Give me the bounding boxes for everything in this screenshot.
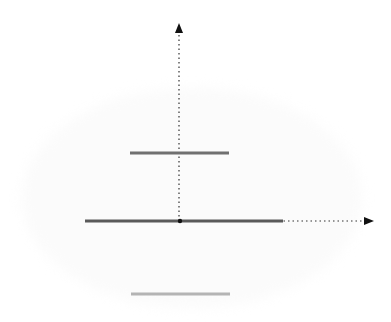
origin-dot [178, 219, 182, 223]
diagram-canvas [0, 0, 391, 322]
